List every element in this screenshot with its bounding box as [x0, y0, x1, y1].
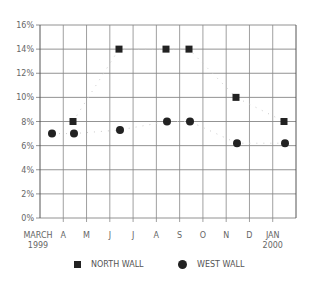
square-marker-icon [74, 261, 81, 268]
svg-text:S: S [177, 231, 182, 240]
circle-marker-icon [178, 260, 187, 269]
svg-text:J: J [131, 231, 134, 240]
svg-text:12%: 12% [16, 69, 34, 78]
data-points [48, 46, 289, 148]
svg-text:JAN: JAN [265, 231, 280, 240]
svg-text:A: A [61, 231, 67, 240]
trend-lines [52, 49, 285, 143]
svg-text:2000: 2000 [263, 241, 283, 250]
legend-item-north-wall: NORTH WALL [74, 260, 144, 269]
svg-text:J: J [108, 231, 111, 240]
svg-text:M: M [83, 231, 90, 240]
svg-text:2%: 2% [21, 190, 34, 199]
svg-text:10%: 10% [16, 93, 34, 102]
legend-label-west-wall: WEST WALL [197, 260, 244, 269]
svg-text:16%: 16% [16, 21, 34, 30]
svg-text:4%: 4% [21, 166, 34, 175]
x-axis-labels: MARCH1999AMJJASONDJAN2000 [23, 231, 282, 250]
svg-text:14%: 14% [16, 45, 34, 54]
moisture-chart: 0%2%4%6%8%10%12%14%16% MARCH1999AMJJASON… [0, 0, 309, 260]
svg-text:0%: 0% [21, 214, 34, 223]
svg-text:6%: 6% [21, 142, 34, 151]
legend-item-west-wall: WEST WALL [178, 260, 244, 269]
svg-text:MARCH: MARCH [23, 231, 52, 240]
svg-text:A: A [154, 231, 160, 240]
svg-text:8%: 8% [21, 118, 34, 127]
svg-text:O: O [200, 231, 206, 240]
y-axis-labels: 0%2%4%6%8%10%12%14%16% [16, 21, 34, 223]
svg-text:D: D [246, 231, 252, 240]
chart-legend: NORTH WALL WEST WALL [0, 260, 309, 274]
svg-text:N: N [223, 231, 229, 240]
legend-label-north-wall: NORTH WALL [91, 260, 144, 269]
svg-text:1999: 1999 [28, 241, 48, 250]
